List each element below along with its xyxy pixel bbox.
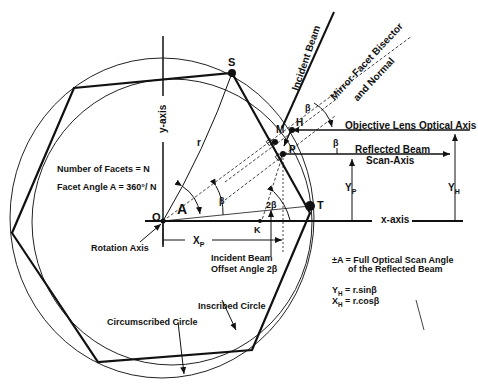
point-h-label: H [296, 118, 303, 128]
beta-label-3: β [333, 139, 339, 148]
point-o-label: O [152, 212, 161, 223]
circumscribed-circle-label: Circumscribed Circle [107, 318, 198, 327]
beta-label-2: β [305, 104, 311, 113]
incident-offset-label-2: Offset Angle 2β [211, 265, 277, 274]
reflected-beam-label: Reflected Beam [355, 145, 430, 155]
point-k-label: K [254, 226, 261, 235]
rotation-axis-label: Rotation Axis [91, 244, 149, 253]
facet-angle-label: Facet Angle A = 360°/ N [57, 183, 156, 192]
x-axis-label: x-axis [381, 215, 409, 225]
y-axis-label: y-axis [158, 105, 168, 133]
point-m-label: M [276, 125, 284, 135]
point-t-label: T [317, 200, 324, 211]
point-s-label: S [228, 57, 235, 68]
inscribed-circle-label: Inscribed Circle [198, 302, 266, 311]
diagram-graphics [0, 0, 478, 390]
radius-r-label: r [197, 138, 201, 148]
scan-angle-label-2: of the Reflected Beam [348, 265, 443, 274]
xp-label: XP [193, 236, 204, 248]
objective-lens-axis-label: Objective Lens Optical Axis [345, 121, 476, 131]
two-beta-label: 2β [266, 201, 277, 210]
facet-angle-a-label: A [177, 202, 187, 216]
num-facets-label: Number of Facets = N [57, 165, 150, 174]
xh-formula: XH = r.cosβ [332, 297, 379, 308]
yp-label: YP [345, 183, 356, 195]
polygon-scanner-diagram: Incident Beam Mirror-Facet Bisector and … [0, 0, 478, 390]
beta-label-1: β [219, 197, 225, 206]
scan-axis-label: Scan-Axis [366, 156, 414, 166]
incident-offset-label-1: Incident Beam [211, 254, 273, 263]
point-p-label: P [289, 145, 296, 155]
yh-label: YH [448, 183, 460, 195]
